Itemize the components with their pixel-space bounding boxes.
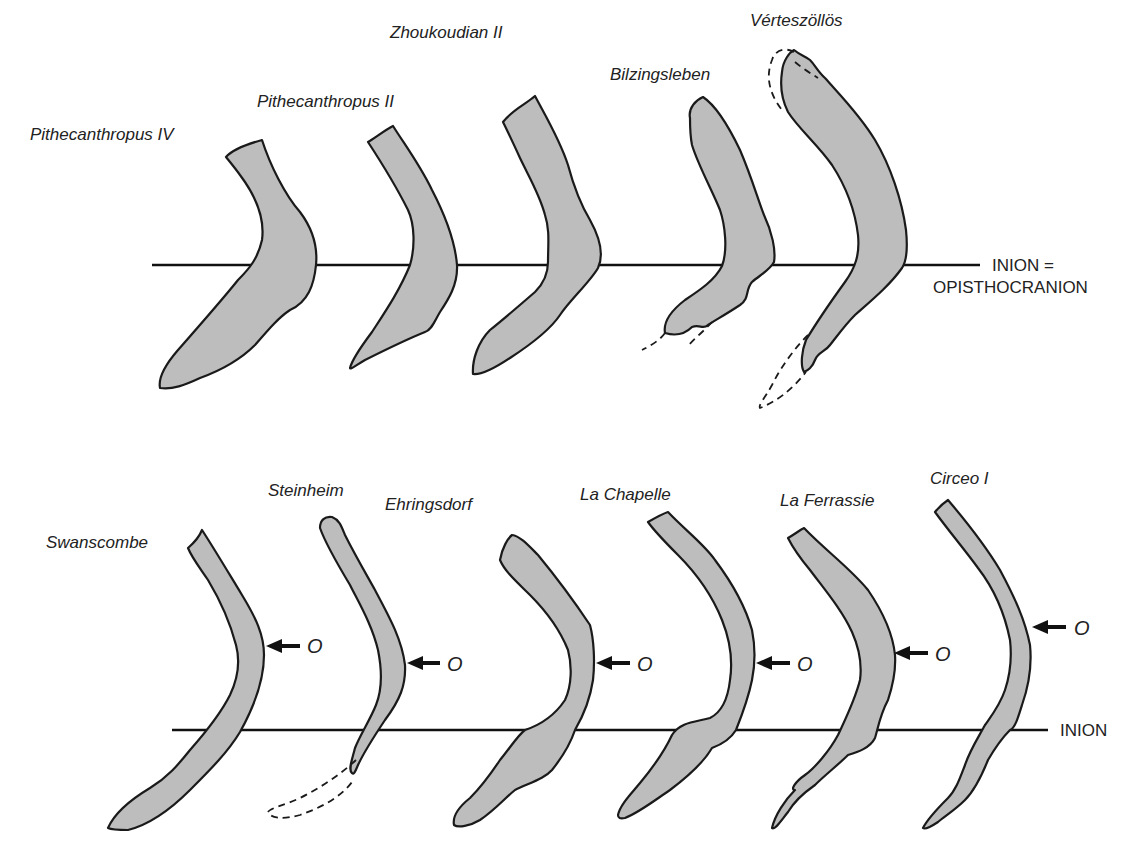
specimen-label: Bilzingsleben xyxy=(610,65,710,84)
specimen-label: Swanscombe xyxy=(46,533,148,552)
bone-profile xyxy=(473,96,601,374)
bone-profile xyxy=(781,50,907,372)
reconstructed-outline xyxy=(642,333,665,350)
opisthocranion-marker: O xyxy=(797,653,813,675)
bone-profile xyxy=(320,517,405,774)
opisthocranion-marker: O xyxy=(1074,617,1090,639)
specimen-label: Circeo I xyxy=(930,469,989,488)
specimen-label: La Chapelle xyxy=(580,485,671,504)
specimen-swanscombe: Swanscombe O xyxy=(46,530,323,830)
specimen-ehringsdorf: Ehringsdorf O xyxy=(385,495,653,826)
specimen-label: La Ferrassie xyxy=(780,491,874,510)
specimen-label: Pithecanthropus II xyxy=(257,92,394,111)
inion-label-line1: INION = xyxy=(992,256,1054,275)
opisthocranion-marker: O xyxy=(637,653,653,675)
opisthocranion-arrow: O xyxy=(596,653,653,675)
specimen-label: Vérteszöllös xyxy=(750,11,843,30)
inion-label-line2: OPISTHOCRANION xyxy=(933,278,1088,297)
opisthocranion-marker: O xyxy=(307,635,323,657)
occipital-profiles-figure: Pithecanthropus IV Pithecanthropus II Zh… xyxy=(0,0,1148,855)
specimen-verteszollos: Vérteszöllös xyxy=(750,11,907,408)
opisthocranion-marker: O xyxy=(935,643,951,665)
bone-profile xyxy=(665,97,775,334)
opisthocranion-arrow: O xyxy=(1032,617,1090,639)
opisthocranion-arrow: O xyxy=(407,653,463,675)
bone-profile xyxy=(454,535,594,826)
specimen-bilzingsleben: Bilzingsleben xyxy=(610,65,775,350)
bone-profile xyxy=(772,528,895,828)
opisthocranion-arrow: O xyxy=(756,653,813,675)
opisthocranion-arrow: O xyxy=(894,643,951,665)
specimen-label: Steinheim xyxy=(268,481,344,500)
reconstructed-outline xyxy=(760,335,808,408)
opisthocranion-marker: O xyxy=(447,653,463,675)
specimen-label: Zhoukoudian II xyxy=(389,23,503,42)
inion-label: INION xyxy=(1060,721,1107,740)
specimen-la-chapelle: La Chapelle O xyxy=(580,485,813,818)
bone-profile xyxy=(108,530,264,830)
specimen-steinheim: Steinheim O xyxy=(268,481,463,818)
reconstructed-outline xyxy=(268,760,356,818)
opisthocranion-arrow: O xyxy=(266,635,323,657)
specimen-label: Pithecanthropus IV xyxy=(30,125,175,144)
bone-profile xyxy=(350,126,457,369)
specimen-pithecanthropus-iv: Pithecanthropus IV xyxy=(30,125,316,388)
specimen-label: Ehringsdorf xyxy=(385,495,474,514)
